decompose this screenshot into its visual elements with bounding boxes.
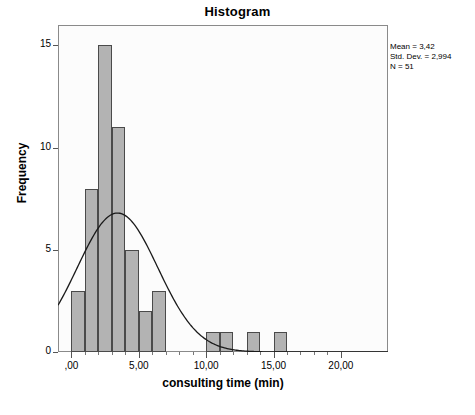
y-tick-mark [53,148,58,149]
histogram-bar [152,291,165,352]
x-axis-minor-tick [179,352,180,355]
stat-std-dev: Std. Dev. = 2,994 [390,52,451,62]
stat-n: N = 51 [390,62,451,72]
x-axis-tick [341,352,342,358]
histogram-bar [85,189,98,353]
x-axis-tick [139,352,140,358]
x-tick-label: 10,00 [194,360,219,371]
x-axis-tick [206,352,207,358]
x-tick-label: 20,00 [328,360,353,371]
statistics-annotation: Mean = 3,42 Std. Dev. = 2,994 N = 51 [390,42,451,72]
x-axis-minor-tick [166,352,167,355]
y-tick-label: 15 [40,38,51,49]
x-axis-minor-tick [125,352,126,355]
x-axis-minor-tick [193,352,194,355]
x-axis-minor-tick [233,352,234,355]
x-tick-label: ,00 [65,360,79,371]
y-axis-title: Frequency [15,113,29,233]
x-axis-title: consulting time (min) [58,376,388,390]
y-tick-label: 10 [40,141,51,152]
chart-title: Histogram [0,4,475,19]
x-axis-minor-tick [98,352,99,355]
x-axis-minor-tick [327,352,328,355]
histogram-bar [98,45,111,352]
histogram-bar [139,311,152,352]
histogram-bar [206,332,219,352]
histogram-bar [112,127,125,352]
y-axis-tick: 15 [0,45,58,46]
x-axis-tick [274,352,275,358]
x-axis-tick [71,352,72,358]
x-axis-minor-tick [220,352,221,355]
y-tick-label: 0 [45,345,51,356]
x-axis-minor-tick [152,352,153,355]
histogram-bar [125,250,138,352]
y-axis-tick: 10 [0,148,58,149]
x-axis-minor-tick [85,352,86,355]
x-tick-label: 5,00 [129,360,148,371]
histogram-chart: Histogram 051015 ,005,0010,0015,0020,00 … [0,0,475,415]
y-axis-tick: 0 [0,352,58,353]
x-axis-minor-tick [247,352,248,355]
x-axis-minor-tick [300,352,301,355]
x-axis-minor-tick [287,352,288,355]
histogram-bar [274,332,287,352]
histogram-bar [220,332,233,352]
y-tick-mark [53,45,58,46]
y-tick-mark [53,250,58,251]
x-tick-label: 15,00 [261,360,286,371]
stat-mean: Mean = 3,42 [390,42,451,52]
y-tick-label: 5 [45,243,51,254]
y-axis-tick: 5 [0,250,58,251]
x-axis-minor-tick [314,352,315,355]
x-axis-minor-tick [112,352,113,355]
x-axis-minor-tick [260,352,261,355]
histogram-bar [71,291,84,352]
x-axis: ,005,0010,0015,0020,00 [58,352,388,378]
histogram-bars [58,25,388,352]
histogram-bar [247,332,260,352]
y-axis: 051015 [0,25,58,352]
